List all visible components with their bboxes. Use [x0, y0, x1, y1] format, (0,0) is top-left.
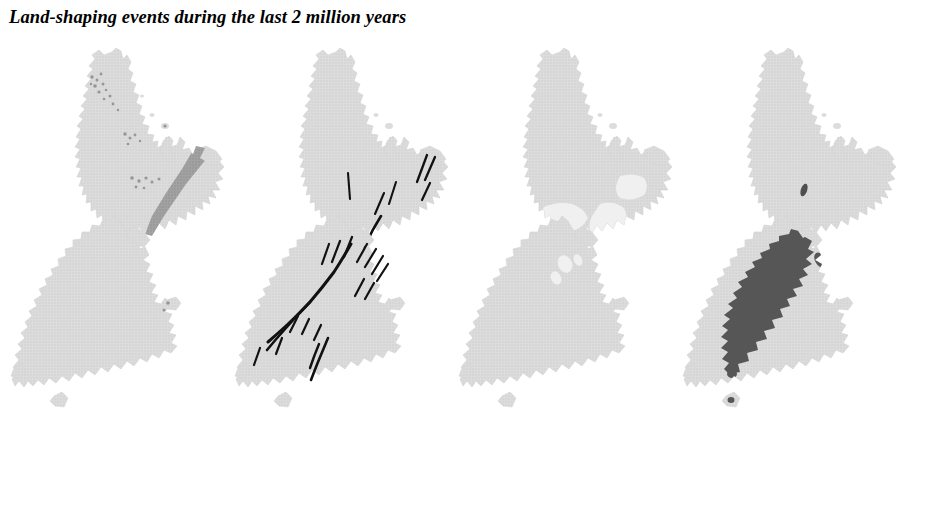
volcano-dot — [129, 137, 132, 140]
north-island-landmass — [75, 48, 224, 237]
offshore-island — [598, 113, 603, 117]
volcano-dot — [103, 98, 106, 101]
volcano-dot — [127, 143, 130, 146]
offshore-island — [374, 113, 379, 117]
volcano-dot — [105, 89, 108, 92]
volcano-dot — [144, 176, 147, 179]
ice-patch-outlier — [727, 370, 737, 378]
offshore-island — [140, 94, 144, 97]
volcano-dot — [102, 83, 105, 86]
offshore-island — [385, 123, 393, 129]
volcano-dot — [90, 83, 92, 85]
map-panel-young-mountain-chains: Young mountain chains — [224, 38, 469, 468]
panel-caption-young-mountain-chains: Young mountain chains — [349, 510, 494, 517]
map-panel-row: Volcanic activity — [0, 38, 945, 468]
south-island-shape — [12, 216, 177, 387]
volcano-dot — [123, 132, 126, 135]
offshore-island — [150, 113, 155, 117]
volcano-dot — [109, 95, 112, 98]
volcano-dot — [93, 84, 97, 88]
fault-line — [377, 264, 388, 281]
north-island-landmass — [299, 48, 448, 237]
new-zealand-map-volcanic-activity — [0, 38, 245, 458]
map-panel-sunken-tracts: Sunken tracts filled with sediment — [448, 38, 693, 468]
volcano-dot — [96, 79, 99, 82]
stewart-island-shape — [50, 392, 68, 407]
volcano-dot — [100, 73, 103, 76]
banks-peninsula-shape — [390, 297, 405, 310]
map-panel-ice-cover: Ice cover in the last of the ice ages — [672, 38, 917, 468]
panel-caption-volcanic-activity: Volcanic activity — [9, 510, 112, 517]
new-zealand-map-sunken-tracts — [448, 38, 693, 458]
new-zealand-map-young-mountain-chains — [224, 38, 469, 458]
stewart-island-shape — [498, 392, 516, 407]
south-island-shape — [460, 216, 625, 387]
offshore-island — [822, 113, 827, 117]
volcano-dot — [134, 134, 137, 137]
north-island-shape — [299, 48, 448, 237]
map-panel-volcanic-activity: Volcanic activity — [0, 38, 245, 468]
banks-peninsula-shape — [838, 297, 853, 310]
volcano-dot — [135, 186, 138, 189]
volcano-dot — [90, 75, 93, 78]
volcano-dot — [163, 309, 166, 312]
volcano-dot — [151, 181, 154, 184]
volcano-dot — [139, 140, 141, 142]
volcano-dot — [166, 301, 170, 305]
volcano-dot — [143, 187, 146, 190]
north-island-shape — [75, 48, 224, 237]
panel-caption-sunken-tracts: Sunken tracts filled with sediment — [720, 510, 841, 517]
stewart-island-shape — [274, 392, 292, 407]
sunken-basin-hawkes-bay — [616, 174, 647, 199]
south-island-landmass — [235, 216, 405, 407]
figure-title: Land-shaping events during the last 2 mi… — [9, 7, 406, 28]
new-zealand-map-ice-cover — [672, 38, 917, 458]
volcano-dot — [137, 179, 140, 182]
north-island-landmass — [747, 48, 896, 237]
banks-peninsula-shape — [614, 297, 629, 310]
volcano-dot — [163, 124, 166, 127]
volcano-dot — [112, 103, 115, 106]
offshore-island — [609, 123, 617, 129]
volcano-dot — [158, 178, 161, 181]
volcano-dot — [97, 90, 100, 93]
volcano-dot — [117, 109, 119, 111]
offshore-island — [833, 123, 841, 129]
north-island-shape — [747, 48, 896, 237]
ice-patch-stewart-island — [728, 397, 735, 403]
south-island-landmass — [459, 216, 629, 407]
south-island-landmass — [11, 216, 181, 407]
land-shaping-figure: Land-shaping events during the last 2 mi… — [0, 0, 945, 517]
volcano-dot — [130, 176, 134, 180]
